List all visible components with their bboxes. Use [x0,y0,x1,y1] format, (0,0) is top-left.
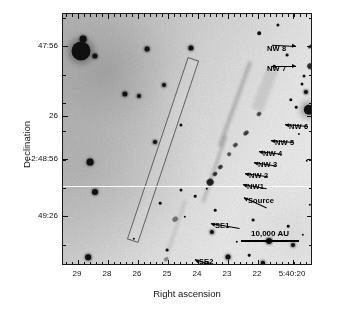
y-axis-minor-tick-right [309,103,312,104]
y-axis-minor-tick [63,103,66,104]
x-axis-minor-tick-top [270,14,271,17]
field-star [248,254,251,257]
x-axis-minor-tick [288,262,289,265]
y-axis-major-tick [63,159,68,160]
x-axis-minor-tick [72,262,73,265]
x-axis-minor-tick [282,262,283,265]
field-star [153,140,157,144]
field-star [286,54,289,57]
x-axis-minor-tick [270,262,271,265]
x-axis-minor-tick [246,262,247,265]
annotation-arrow-nw7 [272,66,296,67]
x-axis-major-tick-top [78,14,79,19]
x-axis-minor-tick [276,262,277,265]
y-axis-tick-label: 49:26 [38,211,58,220]
x-axis-minor-tick-top [180,14,181,17]
y-axis-major-tick [63,116,68,117]
y-axis-minor-tick [63,18,66,19]
field-star [92,189,98,195]
field-star [145,47,150,52]
x-axis-major-tick [138,260,139,265]
x-axis-tick-label: 24 [193,269,202,278]
field-star [214,209,217,212]
y-axis-major-tick-right [307,46,312,47]
x-axis-minor-tick [294,262,295,265]
x-axis-tick-label: 23 [223,269,232,278]
field-star [287,225,290,228]
field-star [194,195,197,198]
x-axis-minor-tick-top [204,14,205,17]
field-star [72,42,91,61]
x-axis-minor-tick [84,262,85,265]
x-axis-minor-tick-top [252,14,253,17]
x-axis-major-tick-top [198,14,199,19]
x-axis-major-tick-top [228,14,229,19]
x-axis-minor-tick [216,262,217,265]
x-axis-major-tick-top [138,14,139,19]
x-axis-minor-tick-top [300,14,301,17]
x-axis-minor-tick [252,262,253,265]
x-axis-minor-tick-top [186,14,187,17]
x-axis-minor-tick-top [306,14,307,17]
x-axis-minor-tick [186,262,187,265]
x-axis-minor-tick [132,262,133,265]
x-axis-minor-tick [156,262,157,265]
x-axis-tick-label: 28 [103,269,112,278]
x-axis-minor-tick [96,262,97,265]
x-axis-tick-label: 26 [133,269,142,278]
x-axis-minor-tick [174,262,175,265]
y-axis-major-tick [63,216,68,217]
x-axis-minor-tick-top [90,14,91,17]
x-axis-major-tick [293,260,294,265]
x-axis-minor-tick [300,262,301,265]
x-axis-minor-tick-top [96,14,97,17]
x-axis-minor-tick-top [174,14,175,17]
x-axis-minor-tick-top [84,14,85,17]
field-star [137,94,141,98]
x-axis-minor-tick [102,262,103,265]
x-axis-minor-tick-top [162,14,163,17]
x-axis-minor-tick-top [276,14,277,17]
x-axis-major-tick [168,260,169,265]
x-axis-title: Right ascension [62,288,312,299]
field-star [295,106,298,109]
x-axis-minor-tick-top [132,14,133,17]
x-axis-minor-tick-top [240,14,241,17]
y-axis-tick-label: -2:48:56 [29,153,58,162]
y-axis-minor-tick-right [309,131,312,132]
x-axis-minor-tick-top [126,14,127,17]
y-axis-minor-tick-right [309,75,312,76]
sky-image-panel: NW 8NW 7NW 6NW 5NW 4NW 3NW 2NW1SourceSE1… [62,13,312,265]
x-axis-minor-tick [192,262,193,265]
field-star [311,193,312,195]
x-axis-minor-tick [144,262,145,265]
x-axis-minor-tick [180,262,181,265]
x-axis-minor-tick [210,262,211,265]
field-star [162,83,166,87]
field-star [257,31,261,35]
field-star [304,105,312,115]
x-axis-tick-label: 25 [163,269,172,278]
image-scanline-artifact [63,186,311,187]
x-axis-minor-tick [222,262,223,265]
x-axis-minor-tick-top [66,14,67,17]
x-axis-minor-tick-top [150,14,151,17]
y-axis-minor-tick [63,245,66,246]
x-axis-minor-tick [162,262,163,265]
x-axis-minor-tick [126,262,127,265]
x-axis-minor-tick-top [246,14,247,17]
y-axis-major-tick-right [307,116,312,117]
x-axis-minor-tick-top [234,14,235,17]
x-axis-minor-tick-top [288,14,289,17]
x-axis-minor-tick-top [72,14,73,17]
y-axis-minor-tick-right [309,188,312,189]
scale-bar: 10,000 AU [241,229,299,242]
x-axis-minor-tick-top [144,14,145,17]
x-axis-tick-label: 29 [73,269,82,278]
x-axis-minor-tick [66,262,67,265]
field-star [85,254,91,260]
x-axis-major-tick-top [168,14,169,19]
x-axis-minor-tick-top [216,14,217,17]
x-axis-minor-tick [240,262,241,265]
x-axis-major-tick [78,260,79,265]
